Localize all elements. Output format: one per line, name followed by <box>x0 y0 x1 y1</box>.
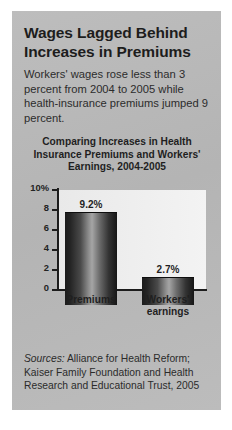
headline: Wages Lagged Behind Increases in Premium… <box>24 23 212 61</box>
bar-value-workers-earnings: 2.7% <box>157 264 180 275</box>
bar-premiums: 9.2% <box>65 212 117 305</box>
bar-value-premiums: 9.2% <box>80 199 103 210</box>
chart-title: Comparing Increases in Health Insurance … <box>28 136 206 174</box>
sources-label: Sources: <box>24 353 65 364</box>
y-tick-2: 4 <box>52 249 58 251</box>
chart-block: Comparing Increases in Health Insurance … <box>20 136 214 305</box>
category-label-premiums-text: Premiums <box>66 294 115 305</box>
bar-chart-plot: 10% 8 6 4 2 0 9.2% 2.7% <box>20 185 214 305</box>
y-tick-5: 10% <box>52 189 58 191</box>
y-tick-label-1: 2 <box>44 263 49 273</box>
y-tick-label-4: 8 <box>44 203 49 213</box>
y-axis-line <box>57 188 59 291</box>
y-tick-3: 6 <box>52 229 58 231</box>
y-tick-1: 2 <box>52 269 58 271</box>
category-label-workers-earnings: Workers' earnings <box>138 294 198 319</box>
category-label-workers-earnings-text: Workers' earnings <box>146 294 189 317</box>
sources-note: Sources: Alliance for Health Reform; Kai… <box>24 352 216 393</box>
infographic-panel: Wages Lagged Behind Increases in Premium… <box>12 11 221 410</box>
y-tick-label-0: 0 <box>44 283 49 293</box>
category-label-premiums: Premiums <box>59 294 123 306</box>
y-tick-label-3: 6 <box>44 223 49 233</box>
y-tick-4: 8 <box>52 209 58 211</box>
deck-paragraph: Workers' wages rose less than 3 percent … <box>24 67 214 125</box>
y-tick-label-2: 4 <box>44 243 49 253</box>
y-tick-label-5: 10% <box>30 183 49 193</box>
y-tick-0: 0 <box>52 289 58 291</box>
